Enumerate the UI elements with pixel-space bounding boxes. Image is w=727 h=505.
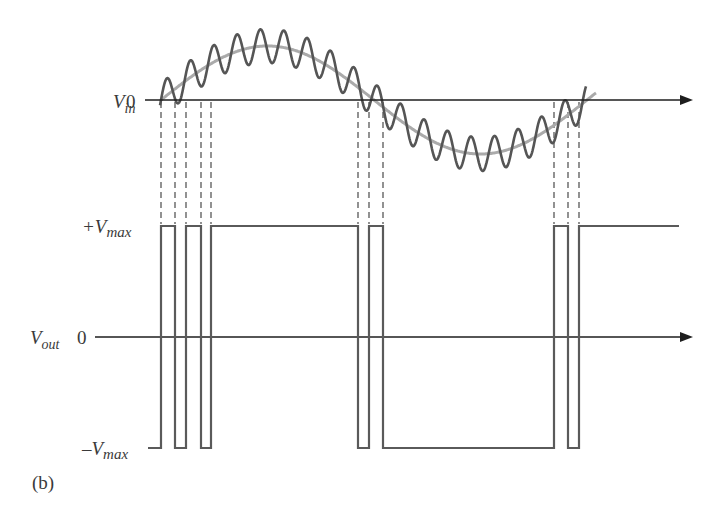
- neg-vmax-label: –Vmax: [81, 438, 128, 462]
- panel-label: (b): [32, 472, 54, 494]
- vout-axis-arrowhead: [680, 332, 693, 342]
- vin-zero-label: 0: [126, 91, 136, 112]
- comparator-noise-figure: Vin 0 Vout 0 +Vmax –Vmax (b): [0, 0, 727, 505]
- vin-axis-arrowhead: [680, 95, 693, 105]
- dashed-guide-lines: [161, 102, 579, 224]
- pos-vmax-label: +Vmax: [82, 216, 132, 240]
- vout-zero-label: 0: [77, 327, 87, 348]
- vout-label: Vout: [30, 327, 61, 352]
